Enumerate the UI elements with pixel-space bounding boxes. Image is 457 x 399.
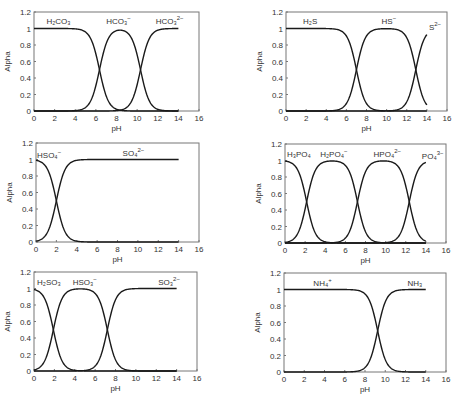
species-label: H₃PO₄ — [287, 150, 311, 159]
x-tick-label: 8 — [363, 246, 368, 255]
speciation-charts-canvas: 00.20.40.60.811.20246810121416pHAlphaH₂C… — [0, 0, 457, 399]
y-tick-label: 0.6 — [271, 190, 283, 199]
y-tick-label: 0.8 — [20, 41, 32, 50]
x-tick-label: 0 — [283, 246, 288, 255]
x-axis-label: pH — [360, 256, 370, 265]
x-tick-label: 8 — [113, 374, 118, 383]
x-tick-label: 0 — [32, 374, 37, 383]
x-tick-label: 4 — [324, 114, 329, 123]
y-tick-label: 0.8 — [272, 41, 284, 50]
x-tick-label: 10 — [131, 374, 140, 383]
x-tick-label: 4 — [73, 114, 78, 123]
species-label: SO₄2− — [123, 147, 145, 158]
series-line-HS- — [286, 29, 427, 111]
x-axis-label: pH — [111, 124, 121, 133]
y-tick-label: 0.4 — [20, 334, 32, 343]
x-tick-label: 6 — [95, 245, 100, 254]
x-tick-label: 4 — [73, 374, 78, 383]
series-line-HSO4- — [36, 160, 179, 242]
x-tick-label: 2 — [303, 246, 308, 255]
x-tick-label: 8 — [114, 114, 119, 123]
y-tick-label: 0.6 — [272, 58, 284, 67]
x-tick-label: 4 — [75, 245, 80, 254]
y-tick-label: 1.2 — [20, 268, 32, 277]
species-label: H₂SO₃ — [37, 278, 61, 287]
y-tick-label: 0.4 — [20, 74, 32, 83]
y-tick-label: 0.6 — [20, 318, 32, 327]
x-tick-label: 16 — [442, 375, 451, 384]
y-tick-label: 0.2 — [20, 91, 32, 100]
y-tick-label: 0.2 — [20, 351, 32, 360]
x-tick-label: 2 — [52, 114, 57, 123]
x-tick-label: 2 — [52, 374, 57, 383]
series-line-SO3 2- — [34, 289, 177, 372]
y-tick-label: 0.6 — [22, 189, 34, 198]
chart-phosphate: 00.20.40.60.811.20246810121416pHAlphaH₃P… — [254, 140, 451, 265]
species-label: H₂S — [303, 17, 317, 26]
y-tick-label: 0.8 — [270, 302, 282, 311]
chart-carbonate: 00.20.40.60.811.20246810121416pHAlphaH₂C… — [3, 8, 204, 133]
series-line-CO3 2- — [34, 29, 178, 111]
y-tick-label: 0.6 — [270, 319, 282, 328]
x-tick-label: 14 — [174, 114, 183, 123]
x-tick-label: 10 — [133, 114, 142, 123]
x-tick-label: 2 — [302, 375, 307, 384]
y-axis-label: Alpha — [253, 312, 262, 333]
x-tick-label: 16 — [442, 246, 451, 255]
y-tick-label: 0.2 — [270, 352, 282, 361]
y-tick-label: 1.2 — [271, 140, 283, 149]
chart-ammonium: 00.20.40.60.811.20246810121416pHAlphaNH₄… — [253, 269, 451, 394]
x-tick-label: 14 — [174, 245, 183, 254]
x-tick-label: 8 — [364, 114, 369, 123]
species-label: H₂PO₄− — [320, 148, 348, 159]
x-tick-label: 0 — [32, 114, 37, 123]
series-line-NH4+ — [284, 290, 426, 373]
y-tick-label: 0.4 — [272, 74, 284, 83]
species-label: PO₄3− — [422, 150, 444, 161]
y-tick-label: 0.4 — [270, 335, 282, 344]
species-label: NH₃ — [408, 279, 423, 288]
plot-frame — [34, 12, 199, 111]
x-axis-label: pH — [360, 385, 370, 394]
x-tick-label: 0 — [34, 245, 39, 254]
series-line-H2CO3 — [34, 29, 178, 112]
x-tick-label: 14 — [422, 114, 431, 123]
chart-sulfite: 00.20.40.60.811.20246810121416pHAlphaH₂S… — [3, 268, 202, 393]
y-tick-label: 0.6 — [20, 58, 32, 67]
y-tick-label: 1.2 — [272, 8, 284, 17]
y-axis-label: Alpha — [5, 182, 14, 203]
x-tick-label: 0 — [282, 375, 287, 384]
y-axis-label: Alpha — [3, 311, 12, 332]
series-line-HSO3- — [34, 289, 177, 371]
y-tick-label: 0.4 — [271, 206, 283, 215]
x-tick-label: 10 — [381, 246, 390, 255]
x-tick-label: 10 — [133, 245, 142, 254]
x-tick-label: 16 — [195, 114, 204, 123]
series-line-H2PO4- — [285, 161, 426, 243]
y-tick-label: 0.2 — [272, 91, 284, 100]
species-label: HCO₃2− — [156, 15, 184, 26]
y-tick-label: 1 — [27, 285, 32, 294]
y-axis-label: Alpha — [3, 51, 12, 72]
chart-sulfate: 00.20.40.60.811.20246810121416pHAlphaHSO… — [5, 139, 204, 264]
x-tick-label: 14 — [421, 375, 430, 384]
x-tick-label: 2 — [304, 114, 309, 123]
x-tick-label: 14 — [172, 374, 181, 383]
species-label: SO₃2− — [158, 276, 180, 287]
x-tick-label: 12 — [401, 246, 410, 255]
species-label: HS− — [382, 15, 397, 26]
y-tick-label: 0.2 — [271, 223, 283, 232]
series-line-HCO3- — [34, 30, 178, 111]
y-tick-label: 0.8 — [271, 173, 283, 182]
x-tick-label: 12 — [402, 114, 411, 123]
y-tick-label: 1 — [27, 25, 32, 34]
y-axis-label: Alpha — [255, 51, 264, 72]
x-tick-label: 4 — [323, 246, 328, 255]
y-axis-label: Alpha — [254, 183, 263, 204]
x-axis-label: pH — [361, 124, 371, 133]
plot-frame — [36, 143, 199, 242]
y-tick-label: 1 — [278, 157, 283, 166]
x-tick-label: 16 — [443, 114, 452, 123]
x-tick-label: 6 — [94, 114, 99, 123]
x-tick-label: 12 — [153, 114, 162, 123]
